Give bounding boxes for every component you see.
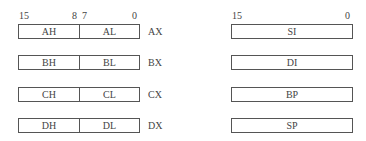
register-dx-label: DX bbox=[148, 118, 162, 133]
register-cx-label: CX bbox=[148, 87, 162, 102]
bit-label-8: 8 bbox=[72, 11, 77, 21]
register-bp: BP bbox=[232, 88, 352, 101]
bit-label-15: 15 bbox=[232, 11, 242, 21]
bit-label-7: 7 bbox=[82, 11, 87, 21]
register-si: SI bbox=[232, 25, 352, 38]
register-sp: SP bbox=[232, 119, 352, 132]
register-dl: DL bbox=[80, 119, 139, 132]
register-ch: CH bbox=[19, 88, 79, 101]
register-cl: CL bbox=[80, 88, 139, 101]
register-sp-box: SP bbox=[231, 118, 353, 133]
register-ax-label: AX bbox=[148, 24, 162, 39]
register-di: DI bbox=[232, 56, 352, 69]
register-al: AL bbox=[80, 25, 139, 38]
register-ax-box: AH AL bbox=[18, 24, 140, 39]
register-dx-box: DH DL bbox=[18, 118, 140, 133]
register-si-box: SI bbox=[231, 24, 353, 39]
register-bp-box: BP bbox=[231, 87, 353, 102]
register-di-box: DI bbox=[231, 55, 353, 70]
bit-label-0: 0 bbox=[345, 11, 350, 21]
bit-label-0: 0 bbox=[132, 11, 137, 21]
register-bx-box: BH BL bbox=[18, 55, 140, 70]
register-bl: BL bbox=[80, 56, 139, 69]
register-bx-label: BX bbox=[148, 55, 162, 70]
bit-label-15: 15 bbox=[19, 11, 29, 21]
register-ah: AH bbox=[19, 25, 79, 38]
register-dh: DH bbox=[19, 119, 79, 132]
register-bh: BH bbox=[19, 56, 79, 69]
register-cx-box: CH CL bbox=[18, 87, 140, 102]
